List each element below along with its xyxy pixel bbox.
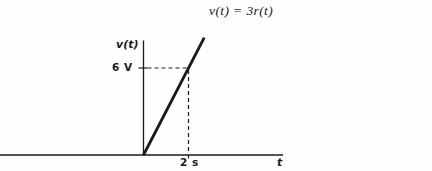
x-axis-label: t <box>277 156 282 169</box>
x-tick-label-2s: 2 s <box>180 156 198 168</box>
y-axis-label: v(t) <box>116 38 138 51</box>
ramp-line <box>144 38 205 155</box>
ramp-plot <box>0 0 432 171</box>
figure-canvas: v(t) = 3r(t) v(t) 6 V 2 s t <box>0 0 432 171</box>
y-tick-label-6v: 6 V <box>112 61 133 73</box>
